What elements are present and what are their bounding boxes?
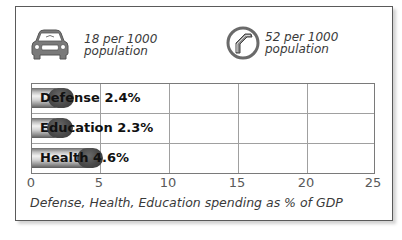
stat-cars-unit: population xyxy=(84,45,157,57)
x-tick-0: 0 xyxy=(16,175,46,190)
stat-phones: 52 per 1000 population xyxy=(226,26,338,60)
car-icon xyxy=(31,29,69,61)
x-tick-20: 20 xyxy=(291,175,321,190)
x-tick-5: 5 xyxy=(84,175,114,190)
bar-label-defense: Defense 2.4% xyxy=(40,89,140,107)
x-tick-25: 25 xyxy=(358,175,388,190)
row-divider-1 xyxy=(32,113,374,114)
x-tick-10: 10 xyxy=(153,175,183,190)
x-tick-15: 15 xyxy=(222,175,252,190)
gridline-20 xyxy=(307,84,308,173)
bar-label-education: Education 2.3% xyxy=(40,119,153,137)
gridline-10 xyxy=(169,84,170,173)
bar-chart-plot: Defense 2.4% Education 2.3% Health 4.6% xyxy=(31,83,375,174)
stat-phones-text: 52 per 1000 population xyxy=(265,31,338,55)
x-axis-caption: Defense, Health, Education spending as %… xyxy=(30,195,343,210)
bar-label-health: Health 4.6% xyxy=(40,149,129,167)
stat-phones-unit: population xyxy=(265,43,338,55)
stat-cars: 18 per 1000 population xyxy=(31,29,157,61)
phone-handset-icon xyxy=(226,26,260,60)
stat-cars-text: 18 per 1000 population xyxy=(84,33,157,57)
row-divider-2 xyxy=(32,143,374,144)
gridline-15 xyxy=(238,84,239,173)
